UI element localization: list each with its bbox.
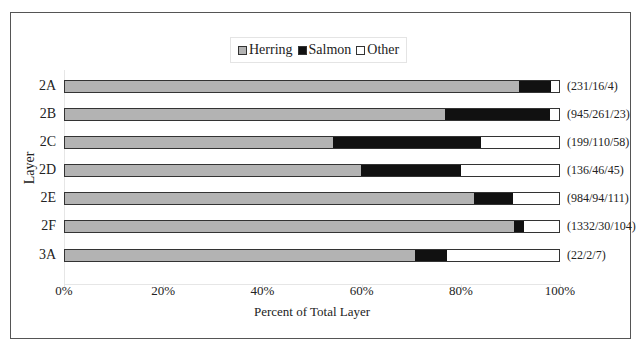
bar-segment-other xyxy=(481,137,559,148)
legend-label: Salmon xyxy=(309,42,352,58)
stacked-bar xyxy=(64,136,560,149)
category-label: 2A xyxy=(39,78,56,94)
y-axis-title: Layer xyxy=(22,152,38,185)
bar-segment-salmon xyxy=(415,250,447,261)
legend-item-herring: Herring xyxy=(238,42,293,58)
legend-item-other: Other xyxy=(356,42,399,58)
category-label: 2F xyxy=(41,218,56,234)
x-tick-label: 40% xyxy=(250,283,274,299)
bar-row-2b: 2B(945/261/23) xyxy=(64,108,560,121)
other-swatch-icon xyxy=(356,46,365,55)
legend: Herring Salmon Other xyxy=(230,37,407,63)
bar-segment-herring xyxy=(65,109,445,120)
bar-segment-other xyxy=(550,109,559,120)
bar-row-3a: 3A(22/2/7) xyxy=(64,249,560,262)
count-annotation: (136/46/45) xyxy=(567,163,624,178)
bar-segment-salmon xyxy=(519,81,551,92)
category-label: 2D xyxy=(39,162,56,178)
stacked-bar xyxy=(64,80,560,93)
category-label: 2B xyxy=(40,106,56,122)
herring-swatch-icon xyxy=(238,46,247,55)
stacked-bar xyxy=(64,220,560,233)
x-axis-line xyxy=(64,284,560,285)
bar-segment-other xyxy=(551,81,559,92)
category-label: 3A xyxy=(39,247,56,263)
bar-segment-herring xyxy=(65,250,415,261)
count-annotation: (22/2/7) xyxy=(567,248,606,263)
stacked-bar xyxy=(64,249,560,262)
x-tick-label: 100% xyxy=(545,283,575,299)
stacked-bar xyxy=(64,108,560,121)
bar-segment-other xyxy=(461,165,559,176)
bar-segment-other xyxy=(524,221,559,232)
bar-segment-other xyxy=(513,193,559,204)
x-tick-label: 20% xyxy=(151,283,175,299)
legend-item-salmon: Salmon xyxy=(298,42,352,58)
x-tick-label: 80% xyxy=(449,283,473,299)
count-annotation: (199/110/58) xyxy=(567,135,629,150)
category-label: 2E xyxy=(40,190,56,206)
count-annotation: (984/94/111) xyxy=(567,191,629,206)
bar-row-2e: 2E(984/94/111) xyxy=(64,192,560,205)
count-annotation: (231/16/4) xyxy=(567,79,618,94)
bar-row-2f: 2F(1332/30/104) xyxy=(64,220,560,233)
bar-segment-herring xyxy=(65,165,361,176)
bar-segment-herring xyxy=(65,193,474,204)
legend-label: Other xyxy=(367,42,399,58)
bar-segment-salmon xyxy=(361,165,461,176)
salmon-swatch-icon xyxy=(298,46,307,55)
x-tick-label: 60% xyxy=(350,283,374,299)
bar-segment-other xyxy=(447,250,559,261)
bar-segment-salmon xyxy=(333,137,481,148)
bar-row-2c: 2C(199/110/58) xyxy=(64,136,560,149)
stacked-bar xyxy=(64,192,560,205)
bar-segment-salmon xyxy=(514,221,524,232)
stacked-bar xyxy=(64,164,560,177)
x-axis-title: Percent of Total Layer xyxy=(254,304,370,320)
x-tick-label: 0% xyxy=(55,283,72,299)
bar-segment-salmon xyxy=(445,109,550,120)
bar-segment-herring xyxy=(65,221,514,232)
bar-segment-salmon xyxy=(474,193,513,204)
bar-segment-herring xyxy=(65,81,519,92)
legend-label: Herring xyxy=(249,42,293,58)
count-annotation: (945/261/23) xyxy=(567,107,630,122)
bar-row-2d: 2D(136/46/45) xyxy=(64,164,560,177)
count-annotation: (1332/30/104) xyxy=(567,219,636,234)
plot-area: 2A(231/16/4)2B(945/261/23)2C(199/110/58)… xyxy=(64,70,560,284)
bar-segment-herring xyxy=(65,137,333,148)
bar-row-2a: 2A(231/16/4) xyxy=(64,80,560,93)
category-label: 2C xyxy=(40,134,56,150)
